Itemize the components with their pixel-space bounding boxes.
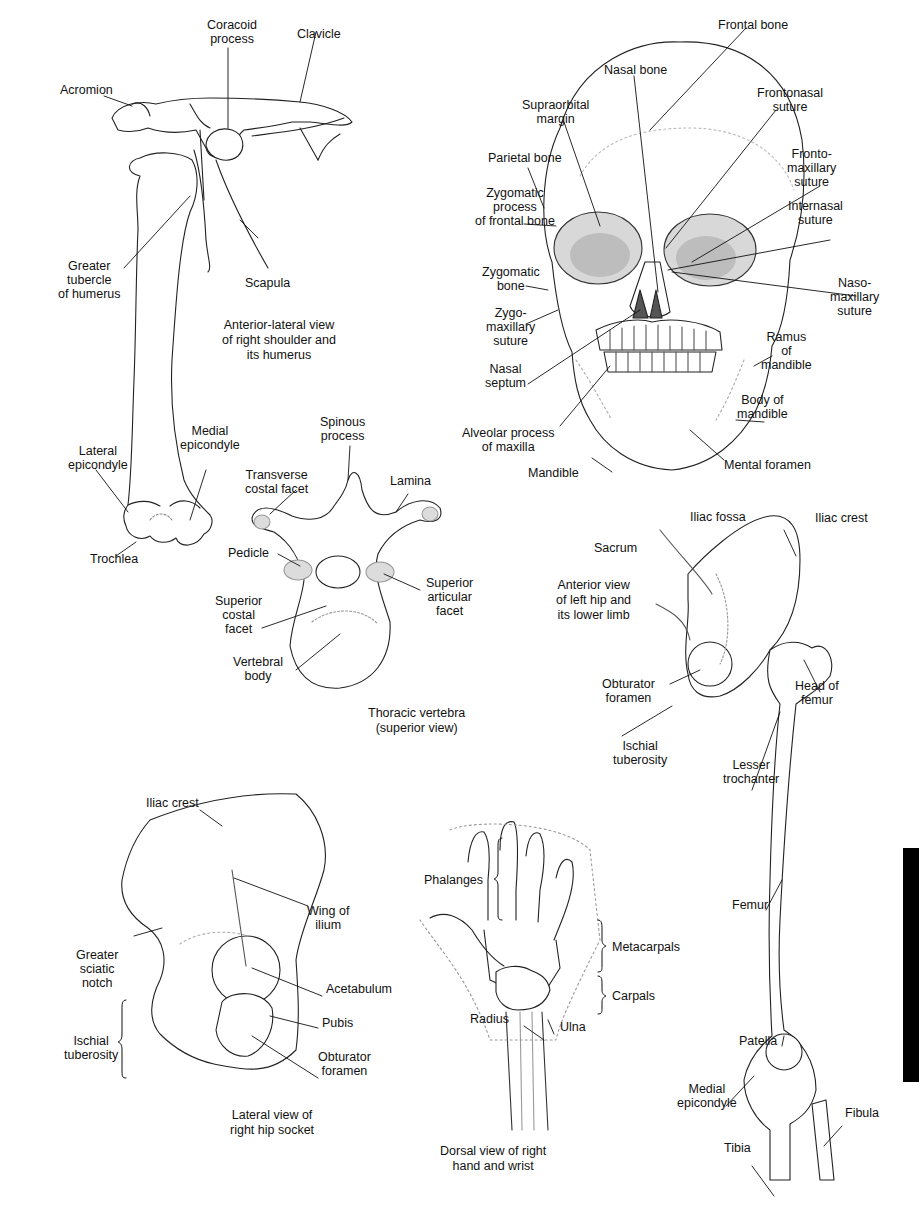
- label-zygomaxillary-suture: Zygo- maxillary suture: [486, 306, 535, 348]
- label-wing-of-ilium: Wing of ilium: [307, 904, 349, 932]
- label-frontomaxillary-suture: Fronto- maxillary suture: [787, 147, 836, 189]
- label-clavicle: Clavicle: [297, 27, 341, 41]
- label-ischial-tuberosity-lateral: Ischial tuberosity: [64, 1034, 118, 1062]
- label-carpals: Carpals: [612, 989, 655, 1003]
- hand-drawing: [420, 822, 600, 1130]
- label-vertebral-body: Vertebral body: [233, 655, 283, 683]
- label-pubis: Pubis: [322, 1016, 353, 1030]
- label-iliac-fossa: Iliac fossa: [690, 510, 746, 524]
- label-sacrum: Sacrum: [594, 541, 637, 555]
- label-lateral-epicondyle: Lateral epicondyle: [68, 444, 128, 472]
- label-lamina: Lamina: [390, 474, 431, 488]
- label-nasal-septum: Nasal septum: [485, 362, 526, 390]
- label-head-of-femur: Head of femur: [795, 679, 839, 707]
- label-iliac-crest-lateral: Iliac crest: [146, 796, 199, 810]
- label-mandible: Mandible: [528, 466, 579, 480]
- page-edge-tab: [903, 848, 919, 1082]
- label-alveolar-process: Alveolar process of maxilla: [462, 426, 554, 454]
- label-zygomatic-bone: Zygomatic bone: [482, 265, 540, 293]
- label-iliac-crest-anterior: Iliac crest: [815, 511, 868, 525]
- label-obturator-foramen-anterior: Obturator foramen: [602, 677, 655, 705]
- label-trochlea: Trochlea: [90, 552, 138, 566]
- label-greater-sciatic-notch: Greater sciatic notch: [76, 948, 118, 990]
- label-lesser-trochanter: Lesser trochanter: [723, 758, 779, 786]
- label-scapula: Scapula: [245, 276, 290, 290]
- caption-vertebra: Thoracic vertebra (superior view): [368, 706, 465, 736]
- label-fibula: Fibula: [845, 1106, 879, 1120]
- label-pedicle: Pedicle: [228, 546, 269, 560]
- label-transverse-costal-facet: Transverse costal facet: [245, 468, 308, 496]
- label-medial-epicondyle: Medial epicondyle: [180, 424, 240, 452]
- caption-shoulder: Anterior-lateral view of right shoulder …: [222, 318, 336, 363]
- label-radius: Radius: [470, 1012, 509, 1026]
- label-body-of-mandible: Body of mandible: [737, 393, 788, 421]
- caption-hip-socket: Lateral view of right hip socket: [230, 1108, 314, 1138]
- label-frontal-bone: Frontal bone: [718, 18, 788, 32]
- label-greater-tubercle: Greater tubercle of humerus: [58, 259, 121, 301]
- label-ischial-tuberosity-anterior: Ischial tuberosity: [613, 739, 667, 767]
- label-internasal-suture: Internasal suture: [788, 199, 843, 227]
- label-nasal-bone: Nasal bone: [604, 63, 667, 77]
- label-superior-articular-facet: Superior articular facet: [426, 576, 473, 618]
- label-phalanges: Phalanges: [424, 873, 483, 887]
- label-patella: Patella: [739, 1034, 777, 1048]
- hip-femur-drawing: [656, 516, 834, 1180]
- label-metacarpals: Metacarpals: [612, 940, 680, 954]
- label-zygomatic-process-frontal: Zygomatic process of frontal bone: [475, 186, 555, 228]
- label-coracoid-process: Coracoid process: [207, 18, 257, 46]
- label-superior-costal-facet: Superior costal facet: [215, 594, 262, 636]
- hip-socket-drawing: [122, 794, 326, 1069]
- label-frontonasal-suture: Frontonasal suture: [757, 86, 823, 114]
- label-acromion: Acromion: [60, 83, 113, 97]
- label-obturator-foramen-lateral: Obturator foramen: [318, 1050, 371, 1078]
- label-nasomaxillary-suture: Naso- maxillary suture: [830, 276, 879, 318]
- label-tibia: Tibia: [724, 1141, 751, 1155]
- label-femur: Femur: [732, 898, 768, 912]
- label-ramus-of-mandible: Ramus of mandible: [761, 330, 812, 372]
- label-acetabulum: Acetabulum: [326, 982, 392, 996]
- label-parietal-bone: Parietal bone: [488, 151, 562, 165]
- label-spinous-process: Spinous process: [320, 415, 365, 443]
- caption-hip-lower-limb: Anterior view of left hip and its lower …: [556, 578, 631, 623]
- label-ulna: Ulna: [560, 1020, 586, 1034]
- label-supraorbital-margin: Supraorbital margin: [522, 98, 589, 126]
- label-mental-foramen: Mental foramen: [724, 458, 811, 472]
- caption-hand: Dorsal view of right hand and wrist: [440, 1144, 546, 1174]
- label-medial-epicondyle-femur: Medial epicondyle: [677, 1082, 737, 1110]
